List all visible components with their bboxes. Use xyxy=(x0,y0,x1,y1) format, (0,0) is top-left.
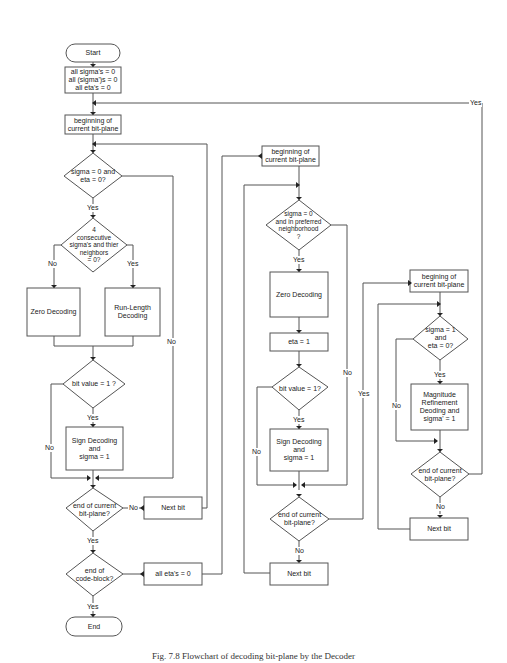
edge-label-no: No xyxy=(44,444,55,452)
init-process: all sigma's = 0 all (sigma')s = 0 all et… xyxy=(65,67,121,93)
edge-label-no: No xyxy=(47,260,58,268)
end-terminator: End xyxy=(66,617,122,636)
right-decision-sigma-eta: sigma = 1 and eta = 0? xyxy=(413,316,468,360)
left-decision-sigma-eta: sigma = 0 and eta = 0? xyxy=(64,153,122,198)
edge-label-yes: Yes xyxy=(86,537,99,545)
middle-decision-preferred: sigma = 0 and in preferred neighborhood … xyxy=(266,200,331,250)
edge-label-yes: Yes xyxy=(86,414,99,422)
middle-begin-bitplane: beginning of current bit-plane xyxy=(262,146,319,166)
middle-decision-end-bitplane: end of current bit-plane? xyxy=(270,497,329,541)
reset-eta-process: all eta's = 0 xyxy=(144,563,202,585)
right-begin-bitplane: begining of current bit-plane xyxy=(410,270,468,292)
middle-decision-bit-value: bit value = 1? xyxy=(272,367,328,410)
middle-next-bit: Next bit xyxy=(270,563,328,585)
edge-label-yes: Yes xyxy=(126,260,139,268)
left-sign-decoding: Sign Decoding and sigma = 1 xyxy=(66,427,123,470)
left-decision-consecutive: 4 consecutive sigma's and thier neighbor… xyxy=(61,218,127,272)
edge-label-yes: Yes xyxy=(86,603,99,611)
middle-eta-set: eta = 1 xyxy=(270,333,328,351)
left-decision-end-bitplane: end of current bit-plane? xyxy=(66,488,123,531)
edge-label-yes: Yes xyxy=(469,99,482,107)
left-run-length-decoding: Run-Length Decoding xyxy=(105,288,160,336)
figure-caption: Fig. 7.8 Flowchart of decoding bit-plane… xyxy=(0,651,507,661)
right-decision-end-bitplane: end of current bit-plane? xyxy=(411,452,469,497)
edge-label-yes: Yes xyxy=(357,390,370,398)
edge-label-no: No xyxy=(166,338,177,346)
start-label: Start xyxy=(86,49,101,57)
start-terminator: Start xyxy=(66,44,120,62)
left-zero-decoding: Zero Decoding xyxy=(27,288,80,336)
left-decision-end-codeblock: end of code-block? xyxy=(66,553,123,596)
middle-sign-decoding: Sign Decoding and sigma = 1 xyxy=(270,429,328,471)
edge-label-no: No xyxy=(342,369,353,377)
right-magnitude-refinement: Magnitude Refinement Deoding and sigma' … xyxy=(411,384,468,430)
edge-label-yes: Yes xyxy=(86,204,99,212)
edge-label-no: No xyxy=(435,503,446,511)
edge-label-yes: Yes xyxy=(292,256,305,264)
left-begin-bitplane: beginning of current bit-plane xyxy=(65,115,121,134)
left-decision-bit-value: bit value = 1 ? xyxy=(63,360,125,408)
edge-label-yes: Yes xyxy=(433,371,446,379)
middle-zero-decoding: Zero Decoding xyxy=(270,272,328,317)
left-next-bit: Next bit xyxy=(144,497,202,519)
edge-label-no: No xyxy=(294,547,305,555)
edge-label-no: No xyxy=(251,448,262,456)
edge-label-no: No xyxy=(391,402,402,410)
edge-label-no: No xyxy=(128,504,139,512)
edge-label-yes: Yes xyxy=(292,416,305,424)
right-next-bit: Next bit xyxy=(410,518,468,540)
